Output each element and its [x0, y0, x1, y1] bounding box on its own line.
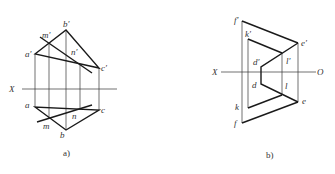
edge-k-l-front [248, 39, 282, 53]
axis-label-x-a: X [8, 84, 15, 94]
label-n-prime: n′ [71, 47, 79, 57]
label-f-prime: f′ [234, 15, 240, 25]
label-k-prime: k′ [245, 29, 252, 39]
label-l: l [285, 81, 288, 91]
figure-a: X b′ m′ n′ a′ c′ a c n m b a) [8, 19, 117, 158]
axis-label-x-b: X [211, 67, 218, 77]
edge-d-e-top [261, 72, 298, 102]
label-d-prime: d′ [253, 57, 261, 67]
label-e-prime: e′ [301, 38, 308, 48]
label-c: c [101, 105, 105, 115]
label-k: k [235, 102, 240, 112]
label-c-prime: c′ [101, 63, 108, 73]
edge-k-l-top [248, 95, 282, 108]
label-f: f [234, 118, 238, 128]
label-n: n [72, 111, 77, 121]
label-b: b [60, 130, 65, 140]
figure-b: X O f′ k′ e′ d′ l′ d l k e f b) [211, 15, 324, 160]
label-b-prime: b′ [63, 19, 71, 29]
label-l-prime: l′ [286, 56, 292, 66]
label-a-prime: a′ [25, 49, 33, 59]
label-a: a [25, 100, 30, 110]
caption-a: a) [63, 148, 70, 158]
label-m-prime: m′ [42, 30, 51, 40]
axis-label-o-b: O [317, 67, 324, 77]
label-m: m [43, 121, 50, 131]
edge-f-e-top [242, 102, 298, 123]
label-d: d [252, 80, 257, 90]
label-e: e [302, 96, 306, 106]
projection-diagrams: X b′ m′ n′ a′ c′ a c n m b a) X O f′ k′ … [0, 0, 335, 174]
caption-b: b) [266, 150, 274, 160]
